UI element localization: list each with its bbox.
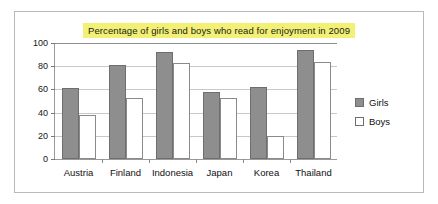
category-indonesia: Indonesia <box>149 43 196 159</box>
x-axis-label-finland: Finland <box>110 167 141 178</box>
category-thailand: Thailand <box>290 43 337 159</box>
bar-group <box>149 43 196 159</box>
bar-group <box>243 43 290 159</box>
x-axis-label-austria: Austria <box>64 167 94 178</box>
y-axis-label: 100 <box>33 38 48 48</box>
legend-item-boys: Boys <box>355 112 417 131</box>
bar-group <box>196 43 243 159</box>
legend-swatch-girls-icon <box>355 98 364 107</box>
bar-girls-indonesia <box>156 52 173 159</box>
x-axis-label-japan: Japan <box>207 167 233 178</box>
x-axis-label-thailand: Thailand <box>295 167 331 178</box>
chart-figure: Percentage of girls and boys who read fo… <box>0 0 438 204</box>
category-japan: Japan <box>196 43 243 159</box>
category-group: AustriaFinlandIndonesiaJapanKoreaThailan… <box>55 43 337 159</box>
bar-girls-finland <box>109 65 126 159</box>
bar-group <box>102 43 149 159</box>
bar-boys-indonesia <box>173 63 190 159</box>
x-axis-label-indonesia: Indonesia <box>152 167 193 178</box>
bar-boys-thailand <box>314 62 331 159</box>
y-axis-label: 40 <box>38 108 48 118</box>
y-axis-tick <box>51 159 55 160</box>
category-finland: Finland <box>102 43 149 159</box>
legend-swatch-boys-icon <box>355 117 364 126</box>
y-axis-label: 80 <box>38 61 48 71</box>
bar-group <box>290 43 337 159</box>
category-korea: Korea <box>243 43 290 159</box>
legend-label-girls: Girls <box>369 97 389 108</box>
x-axis-label-korea: Korea <box>254 167 279 178</box>
y-axis-label: 60 <box>38 84 48 94</box>
y-axis-label: 20 <box>38 131 48 141</box>
chart-legend: Girls Boys <box>355 93 417 131</box>
bar-boys-japan <box>220 98 237 159</box>
bar-girls-japan <box>203 92 220 159</box>
y-axis-label: 0 <box>43 154 48 164</box>
legend-label-boys: Boys <box>369 116 390 127</box>
legend-item-girls: Girls <box>355 93 417 112</box>
bar-boys-korea <box>267 136 284 159</box>
bar-boys-finland <box>126 98 143 159</box>
bar-boys-austria <box>79 115 96 159</box>
bar-group <box>55 43 102 159</box>
category-austria: Austria <box>55 43 102 159</box>
bar-girls-korea <box>250 87 267 159</box>
plot-area: 020406080100 AustriaFinlandIndonesiaJapa… <box>54 43 337 160</box>
bar-girls-thailand <box>297 50 314 159</box>
bar-girls-austria <box>62 88 79 159</box>
